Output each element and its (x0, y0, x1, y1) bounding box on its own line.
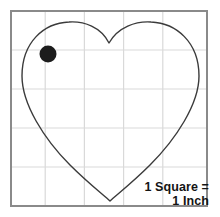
heart-grid-figure: 1 Square = 1 Inch (0, 0, 220, 217)
scale-legend-line-2: 1 Inch (144, 194, 209, 209)
black-dot-marker (40, 46, 57, 63)
scale-legend-line-1: 1 Square = (144, 180, 209, 195)
scale-legend: 1 Square = 1 Inch (144, 180, 209, 210)
